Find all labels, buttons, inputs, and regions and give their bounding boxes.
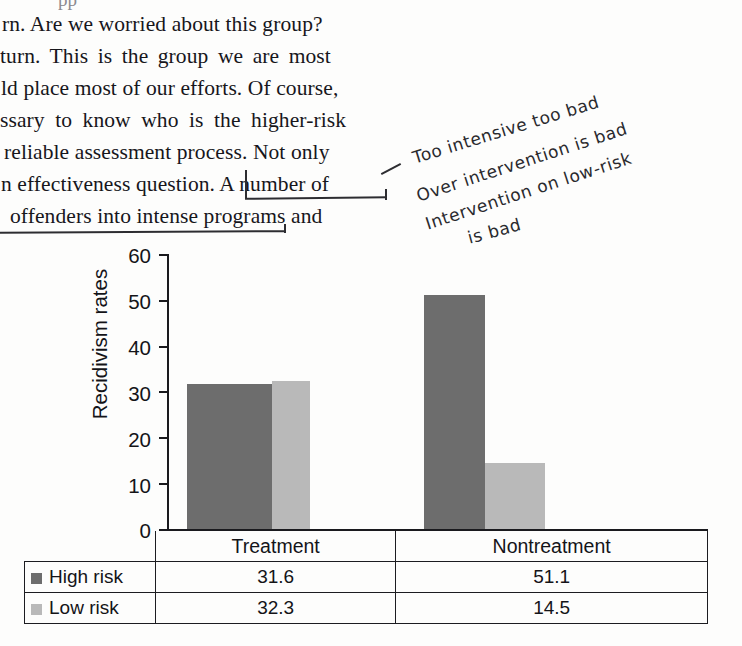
annotation-underline (0, 230, 286, 234)
y-tick-label-10: 10 (105, 474, 151, 498)
annotation-pointer-dash (381, 163, 401, 175)
body-line-3: ld place most of our efforts. Of course, (1, 76, 338, 101)
body-line-7: offenders into intense programs and (10, 204, 322, 229)
annotation-bracket-horizontal (245, 196, 387, 199)
annotation-bracket-end-tick (385, 189, 387, 200)
cell-high-risk-nontreatment: 51.1 (396, 562, 708, 593)
table-row: High risk 31.6 51.1 (25, 562, 708, 593)
y-axis-line (167, 254, 169, 531)
bar-high-risk-nontreatment (424, 295, 485, 529)
category-label-treatment: Treatment (232, 535, 320, 557)
bar-high-risk-treatment (187, 384, 272, 529)
annotation-bracket-vertical (245, 170, 247, 198)
table-row: Low risk 32.3 14.5 (25, 593, 708, 624)
scanned-textbook-page: pp rn. Are we worried about this group? … (0, 0, 742, 646)
body-line-5: reliable assessment process. Not only (4, 140, 330, 165)
cell-low-risk-nontreatment: 14.5 (396, 593, 708, 624)
body-line-6: n effectiveness question. A number of (1, 172, 329, 197)
legend-item-low-risk: Low risk (25, 593, 156, 624)
y-tick-mark-30 (159, 391, 168, 393)
annotation-line-4: is bad (465, 214, 523, 247)
bar-low-risk-treatment (272, 381, 310, 529)
y-tick-mark-60 (159, 254, 168, 256)
annotation-underline-end-tick (284, 224, 286, 233)
bar-low-risk-nontreatment (485, 463, 545, 529)
legend-swatch-low-risk (31, 604, 42, 615)
body-line-1: rn. Are we worried about this group? (2, 12, 323, 37)
y-tick-mark-50 (159, 300, 168, 302)
category-header-nontreatment: Nontreatment (396, 531, 708, 562)
body-line-2: turn. This is the group we are most (0, 44, 331, 69)
y-tick-mark-20 (159, 437, 168, 439)
table-corner-cell (25, 531, 156, 562)
y-axis-title: Recidivism rates (88, 234, 112, 454)
legend-swatch-high-risk (31, 573, 42, 584)
category-header-treatment: Treatment (156, 531, 396, 562)
y-tick-mark-40 (159, 346, 168, 348)
y-tick-label-20: 20 (105, 428, 151, 452)
legend-label-low-risk: Low risk (49, 597, 119, 618)
chart-data-table: Treatment Nontreatment High risk 31.6 51… (24, 531, 708, 624)
table-category-row: Treatment Nontreatment (25, 531, 708, 562)
y-tick-label-30: 30 (105, 382, 151, 406)
y-tick-label-60: 60 (105, 244, 151, 268)
legend-item-high-risk: High risk (25, 562, 156, 593)
category-label-nontreatment: Nontreatment (493, 535, 611, 557)
annotation-text-4: is bad (465, 214, 523, 247)
y-tick-label-40: 40 (105, 336, 151, 360)
cell-low-risk-treatment: 32.3 (156, 593, 396, 624)
y-tick-mark-10 (159, 483, 168, 485)
body-line-4: ssary to know who is the higher-risk (0, 108, 346, 133)
body-line-clipped: pp (58, 0, 77, 11)
legend-label-high-risk: High risk (49, 566, 123, 587)
y-tick-label-50: 50 (105, 290, 151, 314)
cell-high-risk-treatment: 31.6 (156, 562, 396, 593)
